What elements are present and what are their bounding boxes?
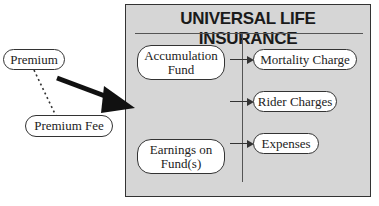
earnings-on-funds-label: Earnings on Fund(s) xyxy=(148,143,214,171)
mortality-charge-label: Mortality Charge xyxy=(260,53,350,67)
arrow-to-mortality xyxy=(230,59,252,60)
mortality-charge-node: Mortality Charge xyxy=(253,49,357,70)
dashed-connector xyxy=(34,70,56,116)
rider-charges-node: Rider Charges xyxy=(253,91,337,112)
big-arrow-head xyxy=(101,86,135,113)
premium-fee-node: Premium Fee xyxy=(25,115,113,137)
earnings-on-funds-node: Earnings on Fund(s) xyxy=(137,139,225,174)
accumulation-fund-label: Accumulation Fund xyxy=(144,49,218,77)
accumulation-fund-node: Accumulation Fund xyxy=(137,45,225,80)
arrow-to-expenses xyxy=(230,143,252,144)
expenses-label: Expenses xyxy=(261,137,310,151)
premium-node: Premium xyxy=(3,49,65,70)
premium-label: Premium xyxy=(10,53,58,67)
rider-charges-label: Rider Charges xyxy=(258,95,333,109)
arrow-to-rider xyxy=(230,101,252,102)
premium-fee-label: Premium Fee xyxy=(34,119,104,133)
expenses-node: Expenses xyxy=(253,133,319,154)
